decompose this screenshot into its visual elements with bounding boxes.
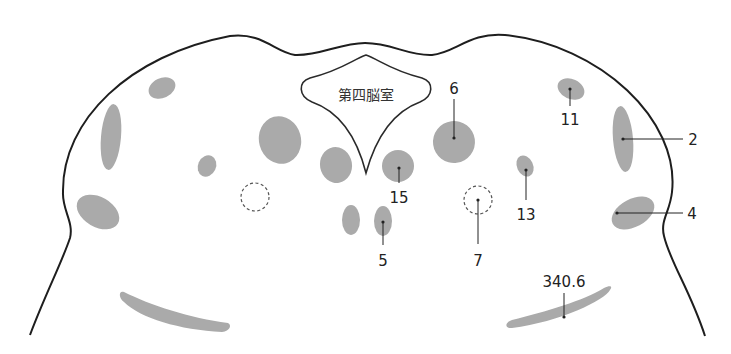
label-4: 4: [687, 205, 697, 223]
region-left-dashed-circle: [241, 183, 269, 211]
region-340-6-crescent: [506, 286, 611, 328]
label-15: 15: [389, 189, 408, 207]
diagram-stage: 第四脳室: [0, 0, 731, 354]
fourth-ventricle-outline: [301, 55, 431, 173]
region-left-small: [194, 152, 220, 180]
region-left-upper-small: [145, 73, 179, 103]
fourth-ventricle-label: 第四脳室: [338, 87, 394, 103]
leader-dots: [381, 87, 624, 318]
label-340-6: 340.6: [543, 273, 586, 291]
region-left-medial: [317, 144, 355, 185]
label-6: 6: [449, 80, 459, 98]
label-5: 5: [378, 252, 388, 270]
region-left-crescent: [120, 292, 230, 332]
region-left-large: [254, 111, 307, 168]
label-7: 7: [473, 252, 483, 270]
label-11: 11: [560, 111, 579, 129]
region-5-left: [342, 205, 360, 235]
region-left-vertical: [98, 103, 124, 170]
region-15: [382, 150, 414, 182]
region-13: [513, 153, 537, 180]
brainstem-section-diagram: 第四脳室: [0, 0, 731, 354]
label-2: 2: [688, 131, 698, 149]
region-left-lateral-lower: [71, 188, 126, 237]
label-13: 13: [516, 206, 535, 224]
